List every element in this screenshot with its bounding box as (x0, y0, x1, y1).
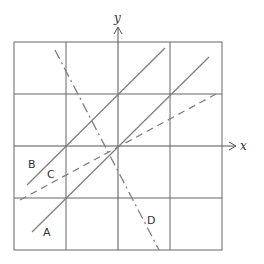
y-axis-label: y (113, 11, 121, 25)
x-axis-label: x (240, 139, 247, 153)
line-d (55, 50, 159, 250)
label-b: B (28, 158, 36, 171)
label-d: D (147, 214, 155, 227)
coordinate-diagram: y x B C A D (0, 0, 264, 264)
line-b (27, 48, 165, 185)
line-a (32, 57, 209, 232)
label-c: C (47, 168, 55, 181)
label-a: A (43, 226, 51, 239)
